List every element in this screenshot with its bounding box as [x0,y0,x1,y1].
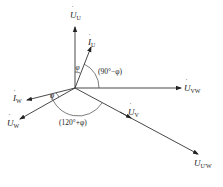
phasor-diagram: UU · IU · UVW · IW · UW · UV · UU'W · φ … [0,0,223,187]
label-i-u: IU · [87,32,96,48]
svg-text:UV: UV [128,107,140,118]
phasor-u-w [20,88,75,119]
angle-label-phi-left: φ [50,91,54,100]
svg-text:UU: UU [70,10,82,21]
dot-accent-icon: · [130,101,132,107]
dot-accent-icon: · [9,112,11,118]
label-u-v: UV · [128,101,140,118]
svg-text:UW: UW [7,118,20,129]
angle-arc-phi-left [56,93,59,97]
svg-text:IU: IU [87,37,96,48]
dot-accent-icon: · [186,77,188,83]
label-u-uw: UU'W · [194,152,212,169]
svg-text:UU'W: UU'W [194,158,212,169]
angle-label-phi-top: φ [76,63,80,72]
label-i-w: IW · [12,88,22,104]
dot-accent-icon: · [72,4,74,10]
dot-accent-icon: · [196,152,198,158]
label-u-vw: UVW · [184,77,201,94]
svg-text:UVW: UVW [184,83,201,94]
dot-accent-icon: · [89,32,91,38]
angle-label-90-minus-phi: (90°−φ) [98,67,123,76]
svg-text:IW: IW [12,93,22,104]
dot-accent-icon: · [14,88,16,94]
angle-arc-90-minus-phi [84,64,99,88]
label-u-w: UW · [7,112,20,129]
phasor-u-uw [75,88,198,154]
label-u-u: UU · [70,4,82,21]
angle-arc-phi-top [75,72,80,73]
angle-label-120-plus-phi: (120°+φ) [59,118,87,127]
